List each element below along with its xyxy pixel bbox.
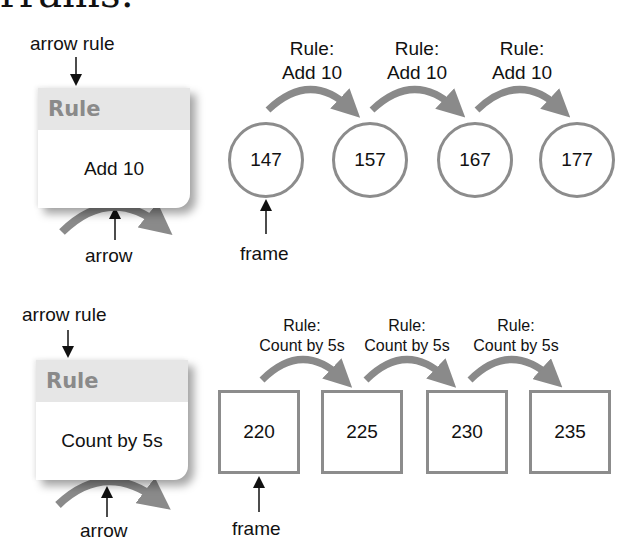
step-rule-label: Rule: Count by 5s	[252, 316, 352, 356]
arrow-label: arrow	[85, 245, 133, 267]
step-rule-label: Rule: Count by 5s	[357, 316, 457, 356]
arrow-label: arrow	[80, 520, 128, 542]
frame-square: 230	[426, 390, 508, 474]
rule-text: Add 10	[482, 61, 562, 85]
step-rule-label: Rule: Add 10	[272, 37, 352, 85]
step-arrow-icon	[477, 89, 560, 110]
rule-prefix: Rule:	[482, 37, 562, 61]
frame-label: frame	[232, 518, 281, 540]
rule-card-body: Add 10	[38, 130, 190, 208]
step-rule-label: Rule: Add 10	[482, 37, 562, 85]
step-arrow-icon	[470, 359, 552, 380]
arrow-rule-label: arrow rule	[22, 304, 106, 326]
rule-text: Count by 5s	[466, 336, 566, 356]
rule-card: Rule Add 10	[38, 88, 190, 208]
rule-text: Add 10	[377, 61, 457, 85]
frame-square: 220	[218, 390, 300, 474]
rule-text: Count by 5s	[357, 336, 457, 356]
rule-card-header: Rule	[36, 360, 188, 402]
arrow-rule-label: arrow rule	[30, 33, 114, 55]
frame-square: 235	[529, 390, 611, 474]
step-rule-label: Rule: Count by 5s	[466, 316, 566, 356]
rule-prefix: Rule:	[377, 37, 457, 61]
rule-prefix: Rule:	[357, 316, 457, 336]
rule-text: Add 10	[272, 61, 352, 85]
step-arrow-icon	[372, 89, 455, 110]
step-arrow-icon	[366, 359, 446, 380]
frame-circle: 157	[332, 122, 408, 198]
rule-prefix: Rule:	[272, 37, 352, 61]
legend-curved-arrow-icon	[62, 207, 160, 232]
rule-card: Rule Count by 5s	[36, 360, 188, 480]
legend-curved-arrow-icon	[58, 481, 158, 505]
rule-prefix: Rule:	[252, 316, 352, 336]
frame-square: 225	[321, 390, 403, 474]
frame-circle: 177	[539, 122, 615, 198]
step-arrow-icon	[262, 359, 342, 380]
rule-text: Count by 5s	[252, 336, 352, 356]
frame-label: frame	[240, 243, 289, 265]
step-rule-label: Rule: Add 10	[377, 37, 457, 85]
step-arrow-icon	[268, 89, 350, 110]
rule-prefix: Rule:	[466, 316, 566, 336]
frame-circle: 147	[228, 122, 304, 198]
rule-card-body: Count by 5s	[36, 402, 188, 480]
frame-circle: 167	[437, 122, 513, 198]
rule-card-header: Rule	[38, 88, 190, 130]
